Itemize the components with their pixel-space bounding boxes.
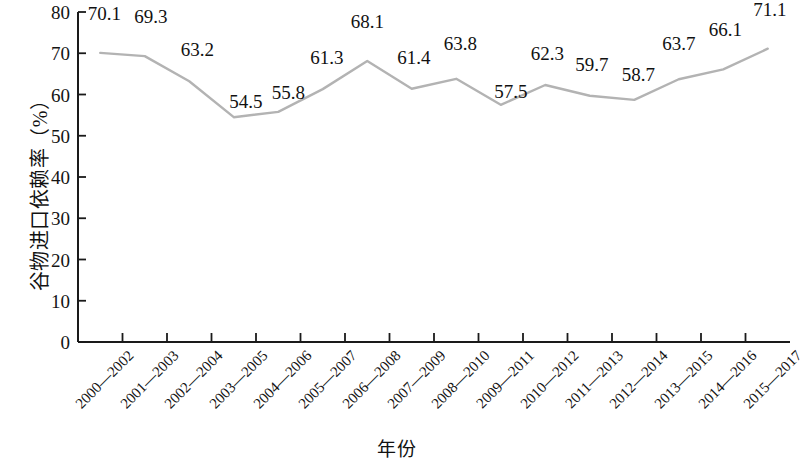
data-point-label: 54.5	[229, 92, 262, 111]
data-point-label: 71.1	[753, 0, 786, 19]
data-point-label: 63.2	[181, 40, 214, 59]
data-point-label: 55.8	[272, 83, 305, 102]
data-point-label: 66.1	[709, 20, 742, 39]
data-point-label: 58.7	[622, 65, 655, 84]
data-point-label: 68.1	[351, 12, 384, 31]
data-point-label: 63.7	[662, 34, 695, 53]
data-point-label: 61.4	[397, 48, 430, 67]
data-point-label: 63.8	[444, 34, 477, 53]
data-point-label: 62.3	[531, 44, 564, 63]
data-point-label: 69.3	[134, 7, 167, 26]
data-point-label: 59.7	[575, 55, 608, 74]
data-point-label: 57.5	[494, 82, 527, 101]
y-axis-tick-label: 80	[34, 3, 70, 22]
y-axis-tick-marks	[78, 12, 86, 342]
data-point-label: 61.3	[310, 48, 343, 67]
x-axis-tick-marks	[123, 333, 746, 342]
axes	[78, 12, 790, 342]
y-axis-tick-label: 0	[34, 333, 70, 352]
y-axis-title: 谷物进口依赖率（%）	[24, 61, 53, 321]
x-axis-title: 年份	[0, 434, 793, 461]
data-point-label: 70.1	[88, 4, 121, 23]
